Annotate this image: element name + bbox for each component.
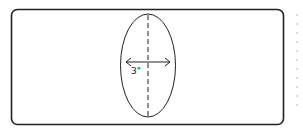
edge-dots (296, 14, 298, 106)
dimension-label: 3" (131, 66, 141, 76)
diagram-canvas: 3" (0, 0, 303, 128)
